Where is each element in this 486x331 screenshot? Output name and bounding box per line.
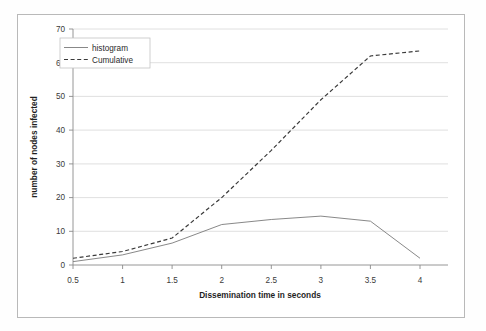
legend-label-histogram: histogram <box>92 44 128 53</box>
y-tick-label: 70 <box>56 25 66 34</box>
y-tick-label: 10 <box>56 227 66 236</box>
x-axis-tick-labels: 0.5 1 1.5 2 2.5 3 3.5 4 <box>67 276 422 285</box>
x-tick-label: 2.5 <box>266 276 278 285</box>
legend-label-cumulative: Cumulative <box>92 56 133 65</box>
chart-figure: 70 60 50 40 30 20 10 0 0.5 1 1.5 2 2.5 3… <box>0 0 486 331</box>
y-tick-label: 40 <box>56 126 66 135</box>
y-tick-label: 0 <box>60 261 65 270</box>
y-tick-label: 50 <box>56 92 66 101</box>
x-tick-label: 0.5 <box>67 276 79 285</box>
cumulative-line <box>73 51 420 258</box>
x-tick-label: 1 <box>120 276 125 285</box>
y-tick-label: 20 <box>56 193 66 202</box>
x-axis-ticks <box>73 265 420 269</box>
x-tick-label: 3 <box>319 276 324 285</box>
x-tick-label: 4 <box>418 276 423 285</box>
series-cumulative <box>73 51 420 258</box>
x-tick-label: 3.5 <box>365 276 377 285</box>
x-tick-label: 1.5 <box>166 276 178 285</box>
x-tick-label: 2 <box>219 276 224 285</box>
series-histogram <box>73 216 420 262</box>
y-tick-label: 30 <box>56 160 66 169</box>
chart-canvas: 70 60 50 40 30 20 10 0 0.5 1 1.5 2 2.5 3… <box>0 0 486 331</box>
chart-legend: histogram Cumulative <box>60 38 150 68</box>
x-axis-title: Dissemination time in seconds <box>199 290 321 300</box>
y-axis-title: number of nodes infected <box>29 96 39 197</box>
histogram-line <box>73 216 420 262</box>
